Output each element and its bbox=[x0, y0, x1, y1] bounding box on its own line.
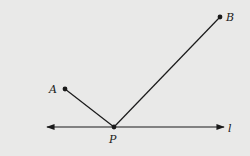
segment-ap bbox=[65, 89, 114, 127]
segment-pb bbox=[114, 17, 220, 127]
point-a-label: A bbox=[48, 83, 57, 96]
point-p-label: P bbox=[108, 133, 117, 146]
line-l-label: l bbox=[228, 122, 232, 135]
point-b-dot bbox=[218, 15, 223, 20]
point-p-dot bbox=[112, 125, 117, 130]
geometry-diagram: A B P l bbox=[0, 0, 250, 156]
point-b-label: B bbox=[225, 11, 234, 24]
point-a-dot bbox=[63, 87, 68, 92]
